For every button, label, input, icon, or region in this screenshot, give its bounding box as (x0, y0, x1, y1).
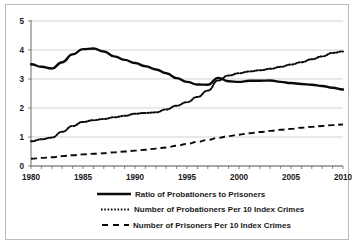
x-axis-tick-labels: 1980198519901995200020052010 (22, 173, 353, 182)
data-series-group (31, 49, 343, 159)
y-tick-label: 3 (19, 75, 24, 84)
series-line-dashed (31, 125, 343, 159)
x-tick-label: 2005 (282, 173, 301, 182)
line-chart: 012345 1980198519901995200020052010 Rati… (0, 0, 355, 245)
x-tick-label: 1980 (22, 173, 41, 182)
tick-mark-group (28, 21, 343, 169)
x-tick-label: 1990 (126, 173, 145, 182)
series-line-solid (31, 49, 343, 90)
y-tick-label: 2 (19, 104, 24, 113)
legend-label: Number of Probationers Per 10 Index Crim… (134, 205, 305, 214)
legend-label: Number of Prisoners Per 10 Index Crimes (133, 221, 291, 230)
legend-label: Ratio of Probationers to Prisoners (135, 190, 266, 199)
x-tick-label: 1985 (74, 173, 93, 182)
gridline-group (31, 21, 343, 166)
x-tick-label: 2000 (230, 173, 249, 182)
chart-figure: 012345 1980198519901995200020052010 Rati… (0, 0, 355, 245)
y-axis-tick-labels: 012345 (19, 17, 24, 171)
series-line-dotted (31, 51, 343, 141)
x-tick-label: 2010 (334, 173, 353, 182)
y-tick-label: 0 (19, 162, 24, 171)
y-tick-label: 1 (19, 133, 24, 142)
y-tick-label: 5 (19, 17, 24, 26)
x-tick-label: 1995 (178, 173, 197, 182)
chart-legend: Ratio of Probationers to PrisonersNumber… (97, 190, 305, 230)
y-tick-label: 4 (19, 46, 24, 55)
